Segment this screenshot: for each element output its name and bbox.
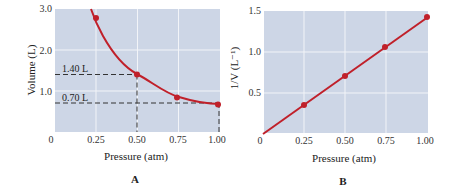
chart-a-xtick-1: 0.25 bbox=[87, 134, 105, 145]
chart-a-xtick-2: 0.50 bbox=[128, 134, 146, 145]
chart-a-ytick-2: 2.0 bbox=[40, 45, 53, 56]
chart-b-ylabel: 1/V (L⁻¹) bbox=[228, 46, 241, 89]
annotation-0-70: 0.70 L bbox=[62, 92, 88, 103]
figure: 1.40 L 0.70 L 3.0 2.0 1.0 0 0.25 0.50 0.… bbox=[0, 0, 456, 194]
chart-a-ytick-3: 3.0 bbox=[40, 3, 53, 14]
chart-b-xtick-0: 0 bbox=[258, 135, 263, 146]
chart-b-xtick-1: 0.25 bbox=[295, 135, 313, 146]
chart-a-panel-label: A bbox=[131, 173, 139, 185]
chart-b-xtick-3: 0.75 bbox=[377, 135, 395, 146]
chart-a-xtick-0: 0 bbox=[49, 134, 54, 145]
chart-a-ylabel: Volume (L) bbox=[25, 44, 38, 95]
chart-a-ytick-1: 1.0 bbox=[40, 86, 53, 97]
chart-b-ytick-3: 1.5 bbox=[249, 5, 262, 16]
chart-a-xlabel: Pressure (atm) bbox=[104, 150, 168, 163]
chart-b-ytick-2: 1.0 bbox=[249, 46, 262, 57]
chart-b-xlabel: Pressure (atm) bbox=[312, 152, 376, 165]
chart-b-xtick-4: 1.00 bbox=[416, 135, 434, 146]
chart-a-xtick-3: 0.75 bbox=[169, 134, 187, 145]
annotation-1-40: 1.40 L bbox=[62, 63, 88, 74]
chart-a: 1.40 L 0.70 L 3.0 2.0 1.0 0 0.25 0.50 0.… bbox=[25, 3, 226, 185]
chart-b: 1.5 1.0 0.5 0 0.25 0.50 0.75 1.00 Pressu… bbox=[228, 5, 434, 187]
chart-b-ytick-1: 0.5 bbox=[249, 87, 262, 98]
chart-b-xtick-2: 0.50 bbox=[336, 135, 354, 146]
chart-a-xtick-4: 1.00 bbox=[208, 134, 226, 145]
chart-b-panel-label: B bbox=[339, 175, 347, 187]
